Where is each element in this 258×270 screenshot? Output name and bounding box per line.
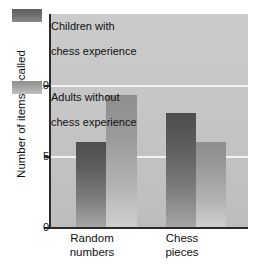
x-tick-label-random-numbers-line1: Random: [44, 232, 140, 246]
x-axis-line: [49, 227, 248, 229]
legend-item-adults[interactable]: Adults without chess experience: [12, 79, 137, 142]
legend-label-children: Children with chess experience: [51, 7, 137, 70]
x-tick-label-chess-pieces-line1: Chess: [134, 232, 230, 246]
legend-label-children-line2: chess experience: [51, 45, 137, 58]
legend: Children with chess experience Adults wi…: [12, 7, 137, 150]
legend-label-adults: Adults without chess experience: [51, 79, 137, 142]
legend-swatch-children: [12, 9, 42, 22]
legend-item-children[interactable]: Children with chess experience: [12, 7, 137, 70]
x-tick-label-random-numbers-line2: numbers: [44, 246, 140, 260]
x-tick-label-random-numbers: Random numbers: [44, 232, 140, 259]
legend-swatch-adults: [12, 81, 42, 94]
y-tick-label-0: 0: [9, 222, 49, 233]
bar-chess-pieces-children[interactable]: [166, 113, 196, 227]
y-tick-0: 0: [0, 222, 49, 233]
legend-label-children-line1: Children with: [51, 20, 137, 33]
bar-chart-figure: 10 5 0 Number of items recalled Random n…: [0, 0, 258, 270]
x-tick-label-chess-pieces-line2: pieces: [134, 246, 230, 260]
legend-label-adults-line1: Adults without: [51, 91, 137, 104]
x-tick-label-chess-pieces: Chess pieces: [134, 232, 230, 259]
legend-label-adults-line2: chess experience: [51, 116, 137, 129]
bar-random-numbers-children[interactable]: [76, 142, 106, 227]
bar-chess-pieces-adults[interactable]: [196, 142, 226, 227]
